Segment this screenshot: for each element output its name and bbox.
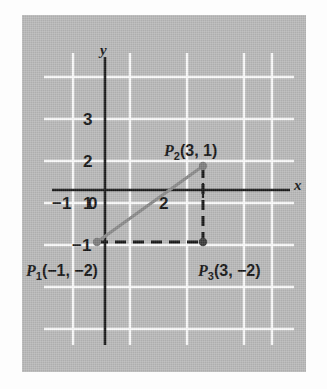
point-label-p3-name: P — [198, 262, 208, 279]
point-label-p1-coords: (−1, −2) — [42, 262, 98, 279]
point-label-p3-coords: (3, −2) — [214, 262, 261, 279]
ytick-label-2: 2 — [83, 153, 92, 170]
xtick-label-2: 2 — [159, 195, 168, 212]
graph-panel: 3 2 1 −1 −1 2 0 x y P2(3, 1) P1(−1, −2) … — [22, 15, 306, 372]
point-label-p1-name: P — [26, 262, 36, 279]
xtick-label--1: −1 — [52, 195, 71, 212]
ytick-label--1: −1 — [72, 237, 91, 254]
point-label-p2-name: P — [164, 142, 174, 159]
point-label-p1: P1(−1, −2) — [26, 263, 98, 282]
point-p3-marker — [199, 238, 207, 246]
point-label-p2-coords: (3, 1) — [180, 142, 217, 159]
x-axis-label: x — [294, 178, 302, 193]
ytick-label-3: 3 — [83, 111, 92, 128]
point-label-p3: P3(3, −2) — [198, 263, 261, 282]
y-axis-label: y — [100, 43, 107, 58]
origin-label: 0 — [88, 195, 97, 212]
grid-horizontal-lines — [44, 77, 294, 329]
figure-root: 3 2 1 −1 −1 2 0 x y P2(3, 1) P1(−1, −2) … — [0, 0, 327, 389]
point-p2-marker — [199, 162, 207, 170]
grid-vertical-lines — [73, 53, 272, 345]
point-label-p2: P2(3, 1) — [164, 143, 217, 162]
point-p1-marker — [93, 238, 101, 246]
